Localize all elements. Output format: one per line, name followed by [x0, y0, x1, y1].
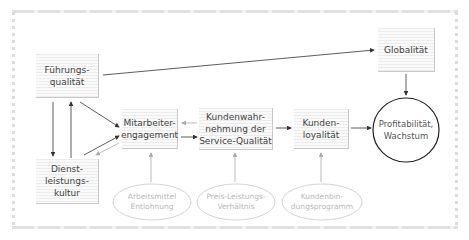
- influencer-arbeitsmittel-label: Arbeitsmittel Entlohnung: [116, 190, 188, 214]
- node-mitarbeiterengagement: Mitarbeiter- engagement: [122, 109, 178, 149]
- node-kundenwahrnehmung: Kundenwahr- nehmung der Service-Qualität: [199, 108, 273, 150]
- edge-mitarbeiter-dienstleistung: [96, 143, 119, 155]
- node-dienstleistungskultur: Dienst- leistungs- kultur: [36, 159, 99, 204]
- influencer-kundenbindung-label: Kundenbin- dungsprogramm: [284, 190, 360, 214]
- edge-fuehrung-mitarbeiter: [80, 102, 119, 127]
- edge-fuehrung-globalitaet: [103, 50, 374, 75]
- node-globalitaet: Globalität: [378, 28, 435, 72]
- diagram-canvas: Führungs- qualität Dienst- leistungs- ku…: [0, 0, 469, 240]
- node-fuehrungsqualitaet: Führungs- qualität: [36, 54, 99, 98]
- influencer-preis-leistung-label: Preis-Leistungs- Verhältnis: [198, 190, 274, 214]
- node-kundenloyalitaet: Kunden- loyalität: [294, 109, 349, 149]
- node-profitabilitaet-label: Profitabilität, Wachstum: [373, 110, 439, 150]
